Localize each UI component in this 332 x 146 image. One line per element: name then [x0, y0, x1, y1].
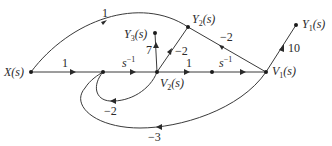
arrow-v1-y2: [219, 45, 224, 50]
gain-x-n2: 1: [62, 57, 68, 69]
label-v2: V2(s): [160, 77, 184, 92]
gain-v1-y1: 10: [288, 42, 300, 54]
gain-n4-v1: s−1: [219, 56, 232, 69]
node-n2: [101, 70, 105, 74]
arrow-x-y2: [101, 20, 107, 25]
node-v2: [155, 70, 159, 74]
node-y2: [186, 25, 190, 29]
gain-v2-n4: 1: [186, 57, 192, 69]
arrow-x-n2: [70, 69, 76, 75]
arrow-v2-y3: [153, 42, 159, 48]
gain-v1-y2: −2: [220, 31, 233, 43]
label-y1: Y1(s): [302, 18, 325, 33]
label-x: X(s): [4, 66, 24, 78]
node-v1: [264, 70, 268, 74]
arrow-n2-v2: [130, 69, 136, 75]
gain-v1-n2: −3: [148, 131, 161, 143]
arrow-n4-v1: [240, 69, 246, 75]
label-y2: Y2(s): [192, 13, 215, 28]
label-v1: V1(s): [272, 65, 296, 80]
label-y3: Y3(s): [124, 28, 147, 43]
branch-v2-y3: [155, 33, 157, 72]
branch-x-y2: [31, 13, 188, 72]
gain-n2-v2: s−1: [122, 56, 135, 69]
gain-v2-n2: −2: [104, 105, 117, 117]
node-y3: [153, 31, 157, 35]
gain-v2-y2: −2: [175, 45, 188, 57]
node-n4: [210, 70, 214, 74]
node-x: [29, 70, 33, 74]
branch-v2-n2-feedback: [96, 72, 157, 101]
gain-x-y2: 1: [102, 7, 108, 19]
gain-v2-y3: 7: [146, 44, 152, 56]
node-y1: [294, 23, 298, 27]
